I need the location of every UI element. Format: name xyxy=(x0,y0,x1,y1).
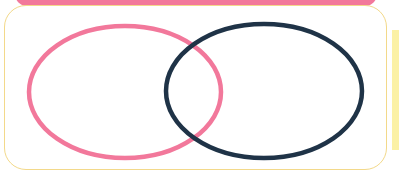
venn-diagram xyxy=(0,0,399,177)
venn-set-b-ellipse xyxy=(166,24,362,158)
